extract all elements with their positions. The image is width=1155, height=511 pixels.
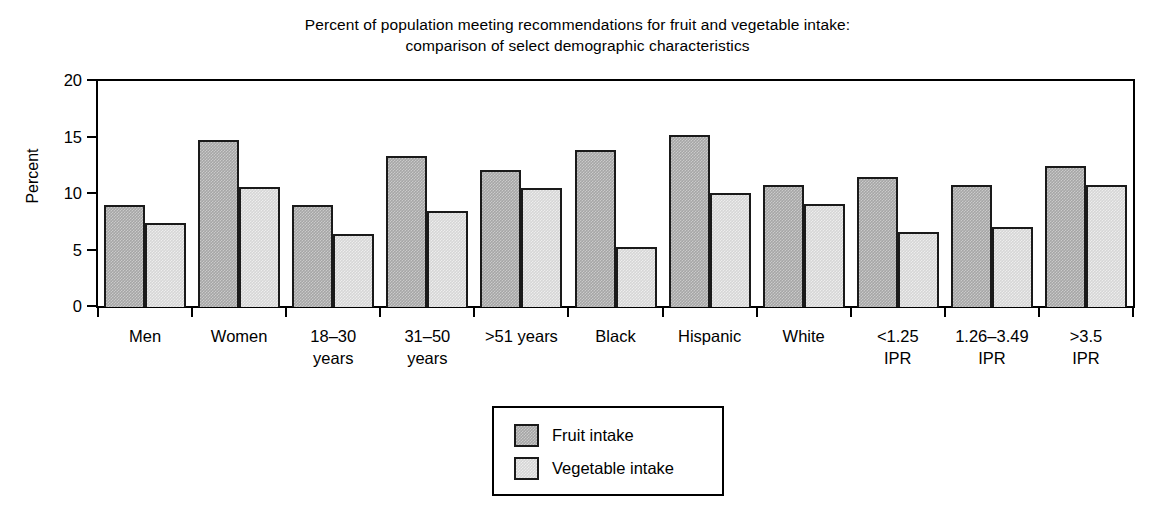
x-tick-label: Hispanic (663, 325, 757, 369)
x-tick-mark (944, 308, 946, 317)
y-tick-label: 0 (73, 297, 82, 316)
bar-group (757, 81, 851, 307)
x-tick-mark (191, 308, 193, 317)
x-tick-label-line-2: years (286, 347, 380, 369)
x-tick-mark (379, 308, 381, 317)
x-tick-label-line-1: Hispanic (678, 327, 741, 345)
bar-fruit-intake (386, 156, 427, 307)
bar-group (286, 81, 380, 307)
bar-vegetable-intake (710, 193, 751, 307)
x-tick-mark (285, 308, 287, 317)
chart-title: Percent of population meeting recommenda… (0, 14, 1155, 56)
y-tick-mark (87, 192, 96, 194)
bar-fruit-intake (1045, 166, 1086, 307)
bar-vegetable-intake (145, 223, 186, 307)
x-tick-label-line-1: Black (595, 327, 635, 345)
y-tick-label: 10 (64, 184, 82, 203)
bar-fruit-intake (292, 205, 333, 307)
x-tick-label-line-1: Women (211, 327, 268, 345)
x-tick-label: >3.5IPR (1039, 325, 1133, 369)
legend-label-fruit-intake: Fruit intake (552, 426, 634, 445)
chart-title-line-1: Percent of population meeting recommenda… (0, 14, 1155, 35)
x-tick-label: Men (98, 325, 192, 369)
y-tick-label: 15 (64, 127, 82, 146)
x-tick-label-line-1: White (783, 327, 825, 345)
x-tick-label-line-2: IPR (851, 347, 945, 369)
chart-title-line-2: comparison of select demographic charact… (0, 35, 1155, 56)
bar-fruit-intake (669, 135, 710, 307)
x-tick-mark (1038, 308, 1040, 317)
legend-item-fruit-intake: Fruit intake (514, 419, 722, 452)
x-tick-mark (662, 308, 664, 317)
bar-group (192, 81, 286, 307)
chart-figure: Percent of population meeting recommenda… (0, 0, 1155, 511)
bar-fruit-intake (575, 150, 616, 307)
legend-label-vegetable-intake: Vegetable intake (552, 459, 674, 478)
bar-group (474, 81, 568, 307)
x-tick-label: >51 years (474, 325, 568, 369)
bar-fruit-intake (763, 185, 804, 307)
y-tick-label: 5 (73, 240, 82, 259)
bar-vegetable-intake (898, 232, 939, 307)
y-tick-label: 20 (64, 71, 82, 90)
legend-swatch-vegetable-intake (514, 457, 539, 480)
x-tick-label-line-1: 18–30 (310, 327, 356, 345)
x-tick-label: 31–50years (380, 325, 474, 369)
bar-group (945, 81, 1039, 307)
bar-vegetable-intake (1086, 185, 1127, 307)
bar-group (380, 81, 474, 307)
bar-vegetable-intake (992, 227, 1033, 307)
x-tick-label-line-1: Men (129, 327, 161, 345)
bar-vegetable-intake (239, 187, 280, 307)
bar-group (568, 81, 662, 307)
bar-fruit-intake (857, 177, 898, 307)
x-tick-label: White (757, 325, 851, 369)
y-tick-mark (87, 305, 96, 307)
bar-vegetable-intake (427, 211, 468, 307)
x-tick-mark (1132, 308, 1134, 317)
legend-item-vegetable-intake: Vegetable intake (514, 452, 722, 485)
x-tick-label-line-2: IPR (1039, 347, 1133, 369)
x-tick-label-line-2: years (380, 347, 474, 369)
x-tick-label-line-2: IPR (945, 347, 1039, 369)
x-tick-label-line-1: <1.25 (877, 327, 919, 345)
bar-fruit-intake (198, 140, 239, 307)
bar-vegetable-intake (521, 188, 562, 307)
y-tick-mark (87, 136, 96, 138)
x-tick-mark (97, 308, 99, 317)
x-tick-label-line-1: 31–50 (404, 327, 450, 345)
x-tick-mark (756, 308, 758, 317)
x-tick-label: Black (568, 325, 662, 369)
bar-fruit-intake (951, 185, 992, 307)
x-tick-mark (473, 308, 475, 317)
bar-fruit-intake (104, 205, 145, 307)
bar-group (851, 81, 945, 307)
plot-area (98, 81, 1133, 307)
bar-group (98, 81, 192, 307)
bar-fruit-intake (480, 170, 521, 307)
bar-vegetable-intake (333, 234, 374, 307)
bar-vegetable-intake (804, 204, 845, 307)
x-tick-label-line-1: >51 years (485, 327, 558, 345)
x-axis-labels: MenWomen18–30years31–50years>51 yearsBla… (98, 325, 1133, 369)
y-axis-label: Percent (24, 116, 42, 236)
x-tick-label: 1.26–3.49IPR (945, 325, 1039, 369)
x-tick-mark (567, 308, 569, 317)
x-tick-label-line-1: 1.26–3.49 (955, 327, 1028, 345)
x-tick-mark (850, 308, 852, 317)
bar-vegetable-intake (616, 247, 657, 307)
bar-group (663, 81, 757, 307)
x-tick-label: <1.25IPR (851, 325, 945, 369)
x-axis-ticks (96, 308, 1135, 318)
legend-swatch-fruit-intake (514, 424, 539, 447)
x-tick-label-line-1: >3.5 (1070, 327, 1103, 345)
bar-group (1039, 81, 1133, 307)
chart-legend: Fruit intake Vegetable intake (492, 406, 724, 496)
y-tick-mark (87, 249, 96, 251)
y-tick-mark (87, 79, 96, 81)
x-tick-label: Women (192, 325, 286, 369)
x-tick-label: 18–30years (286, 325, 380, 369)
